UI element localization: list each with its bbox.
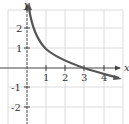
- x-axis-arrow-icon: [115, 66, 121, 71]
- x-axis: [0, 66, 121, 71]
- x-tick-3: 3: [81, 72, 87, 83]
- x-tick-2: 2: [62, 72, 68, 83]
- y-tick-neg2: -2: [11, 102, 21, 113]
- y-tick-neg1: -1: [11, 82, 21, 93]
- y-tick-2: 2: [16, 23, 22, 34]
- curve-arrow-right-icon: [113, 75, 122, 80]
- x-axis-label: x: [124, 62, 129, 73]
- x-tick-1: 1: [43, 72, 49, 83]
- y-tick-1: 1: [16, 43, 22, 54]
- chart-canvas: 1 2 3 4 2 1 -1 -2 y x: [0, 0, 129, 124]
- y-axis: [25, 3, 30, 124]
